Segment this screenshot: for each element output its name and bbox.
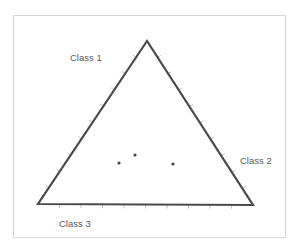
ternary-triangle	[38, 41, 253, 205]
vertex-label-class-2: Class 2	[240, 156, 272, 166]
data-point	[117, 161, 120, 164]
data-point	[171, 162, 174, 165]
data-point	[133, 153, 136, 156]
vertex-label-class-1: Class 1	[70, 53, 102, 63]
ternary-plot	[0, 0, 299, 247]
data-points	[117, 153, 174, 165]
vertex-label-class-3: Class 3	[59, 219, 91, 229]
tick-marks	[46, 55, 246, 209]
